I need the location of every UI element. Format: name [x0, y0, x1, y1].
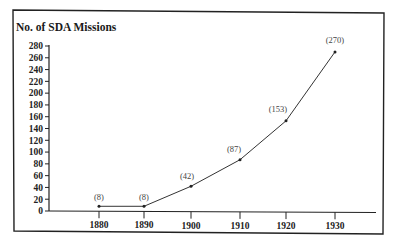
y-tick-label: 180: [29, 100, 44, 110]
y-tick-label: 60: [34, 171, 44, 181]
data-point: [239, 158, 242, 161]
y-tick-label: 160: [29, 112, 44, 122]
data-label: (87): [227, 144, 241, 154]
y-tick-label: 200: [29, 88, 44, 98]
y-tick-label: 280: [29, 41, 44, 51]
data-label: (8): [94, 192, 104, 202]
y-tick-label: 140: [29, 124, 44, 134]
data-labels: (8)(8)(42)(87)(153)(270): [94, 35, 344, 202]
data-label: (8): [139, 192, 149, 202]
y-tick-label: 80: [34, 159, 44, 169]
x-tick-label: 1900: [182, 221, 201, 231]
chart-figure: No. of SDA Missions 02040608010012014016…: [0, 0, 396, 250]
data-point: [190, 185, 193, 188]
line-chart: No. of SDA Missions 02040608010012014016…: [0, 0, 396, 250]
y-axis: 020406080100120140160180200220240260280: [29, 41, 49, 216]
data-point: [334, 50, 337, 53]
data-point: [285, 119, 288, 122]
data-point: [143, 205, 146, 208]
y-tick-label: 120: [29, 136, 44, 146]
chart-title: No. of SDA Missions: [16, 21, 117, 33]
y-tick-label: 40: [34, 183, 44, 193]
data-point: [98, 205, 101, 208]
data-label: (153): [269, 104, 288, 114]
y-tick-label: 0: [38, 206, 43, 216]
x-tick-label: 1910: [231, 221, 250, 231]
x-axis: 188018901900191019201930: [49, 211, 376, 231]
x-tick-label: 1880: [90, 220, 109, 230]
series-line: [99, 52, 335, 206]
data-label: (42): [180, 171, 194, 181]
x-axis-line: [49, 211, 376, 213]
x-tick-label: 1890: [135, 220, 154, 230]
data-series: [98, 50, 337, 207]
x-tick-label: 1920: [277, 221, 296, 231]
x-tick-label: 1930: [326, 221, 345, 231]
y-tick-label: 20: [34, 195, 44, 205]
y-tick-label: 100: [29, 147, 44, 157]
y-tick-label: 260: [29, 53, 44, 63]
y-tick-label: 240: [29, 65, 44, 75]
data-label: (270): [326, 35, 345, 45]
y-tick-label: 220: [29, 77, 44, 87]
